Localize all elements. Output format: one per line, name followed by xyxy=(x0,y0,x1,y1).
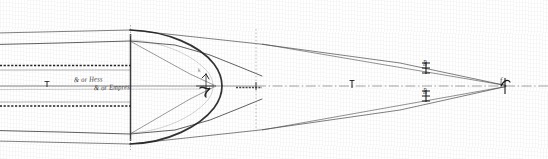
bow-profile-curve-inner xyxy=(131,40,213,133)
tick-mid-centerline xyxy=(350,80,355,88)
bow-tangent-lower xyxy=(130,86,216,134)
apex-converging-rays xyxy=(262,44,506,130)
centerline-ticks xyxy=(45,80,355,88)
bow-tangent-upper xyxy=(130,41,216,86)
deck-edge-lower-line xyxy=(0,87,506,145)
ray-lower-to-apex xyxy=(262,87,506,131)
ray-upper-to-apex xyxy=(262,44,506,86)
ship-lines-plan-svg xyxy=(0,0,548,159)
bow-profile-group xyxy=(130,30,222,144)
centerline-group xyxy=(0,86,548,90)
bow-annot-arrow xyxy=(202,74,209,79)
bow-profile-curve-main xyxy=(130,30,222,144)
bow-annot-scribble xyxy=(200,87,210,97)
bow-annotation-cluster xyxy=(196,73,214,97)
deck-edge-upper-line xyxy=(0,30,506,86)
centerline-secondary-left xyxy=(0,89,200,90)
drawing-canvas: & or Hess & or Empres B B f k xyxy=(0,0,548,159)
station-markers xyxy=(422,62,430,102)
